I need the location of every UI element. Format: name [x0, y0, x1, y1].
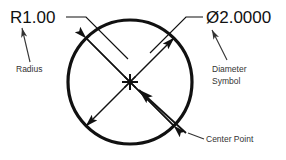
- technical-drawing-canvas: R1.00 Ø2.0000 Radius Diameter Symbol Cen…: [0, 0, 286, 160]
- center-note-leader: [188, 133, 204, 139]
- radius-dimension-label: R1.00: [10, 8, 55, 27]
- radius-annotation-label: Radius: [16, 64, 42, 74]
- radius-dimension-line: [86, 82, 130, 126]
- radius-note-leader: [22, 28, 30, 62]
- center-point-callout-arrow: [139, 90, 186, 133]
- diameter-annotation-label-line2: Symbol: [212, 76, 240, 86]
- diameter-dimension-label: Ø2.0000: [206, 8, 271, 27]
- diameter-annotation-label-line1: Diameter: [212, 64, 247, 74]
- cad-drawing-svg: R1.00 Ø2.0000 Radius Diameter Symbol Cen…: [0, 0, 286, 160]
- diameter-label-leader: [150, 17, 203, 53]
- center-point-annotation-label: Center Point: [206, 134, 254, 144]
- diameter-leader-line: [130, 38, 174, 82]
- diameter-note-leader: [212, 30, 227, 60]
